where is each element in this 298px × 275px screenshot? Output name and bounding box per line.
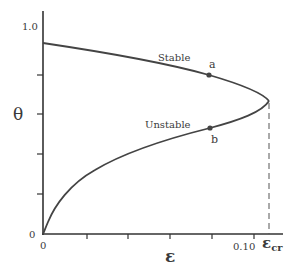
x-axis-label: ε	[165, 246, 175, 266]
y-axis-label: θ	[13, 104, 23, 124]
unstable-label: Unstable	[145, 119, 191, 130]
stable-label: Stable	[158, 52, 190, 63]
stability-chart: 1.0 0 0 0.10 εcr ε θ Stable Unstable a b	[0, 0, 298, 275]
stable-curve	[43, 43, 269, 101]
y-tick-label-0: 0	[29, 229, 35, 240]
y-tick-label-1: 1.0	[22, 21, 38, 32]
x-tick-label-0: 0	[40, 240, 46, 251]
point-b-label: b	[211, 133, 218, 146]
x-tick-label-010: 0.10	[233, 241, 255, 252]
x-tick-label-ecr: εcr	[262, 234, 283, 253]
y-ticks	[37, 75, 43, 194]
point-a-label: a	[209, 58, 216, 71]
point-b-marker	[207, 125, 212, 130]
point-a-marker	[206, 72, 211, 77]
